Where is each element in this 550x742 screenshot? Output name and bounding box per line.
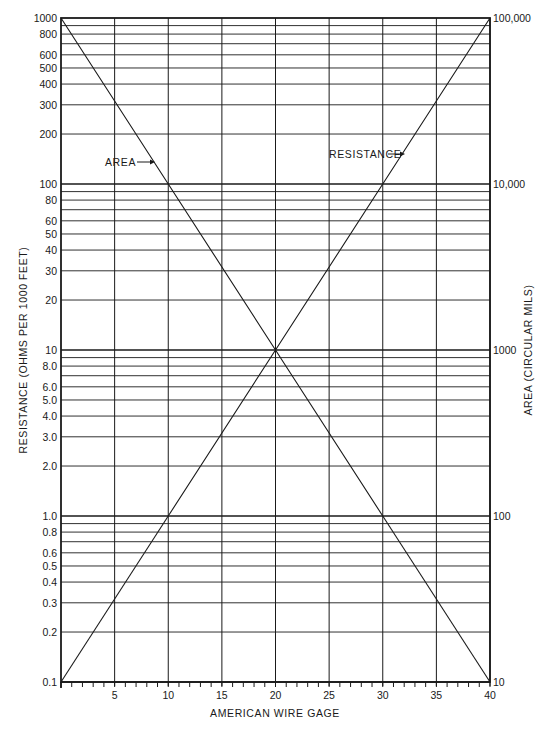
y-tick-label: 60 <box>45 215 57 227</box>
y-tick-label: 1.0 <box>42 510 57 522</box>
x-tick-label: 20 <box>270 689 282 701</box>
y-tick-label: 0.1 <box>42 676 57 688</box>
y-tick-label: 100 <box>39 178 57 190</box>
resistance-annotation: RESISTANCE <box>329 148 405 160</box>
y2-axis-title: AREA (CIRCULAR MILS) <box>522 284 534 415</box>
y-tick-label: 600 <box>39 49 57 61</box>
y-tick-label: 800 <box>39 28 57 40</box>
vertical-gridlines <box>115 18 490 686</box>
y-tick-label: 500 <box>39 62 57 74</box>
wire-gage-chart: 1000800600500400300200100806050403020108… <box>0 0 550 742</box>
x-axis-title: AMERICAN WIRE GAGE <box>210 707 340 719</box>
x-tick-label: 40 <box>484 689 496 701</box>
y-tick-label: 30 <box>45 265 57 277</box>
y-tick-label: 50 <box>45 228 57 240</box>
y-tick-label: 1000 <box>34 12 58 24</box>
y2-tick-label: 100 <box>493 510 511 522</box>
y-tick-label: 2.0 <box>42 460 57 472</box>
y-tick-label: 3.0 <box>42 431 57 443</box>
x-tick-label: 15 <box>216 689 228 701</box>
y-tick-label: 10 <box>45 344 57 356</box>
x-tick-label: 35 <box>431 689 443 701</box>
y2-tick-label: 1000 <box>493 344 517 356</box>
left-y-tick-labels: 1000800600500400300200100806050403020108… <box>34 12 58 688</box>
y-tick-label: 80 <box>45 194 57 206</box>
x-tick-label: 5 <box>112 689 118 701</box>
x-tick-label: 25 <box>323 689 335 701</box>
y-tick-label: 400 <box>39 78 57 90</box>
x-tick-labels: 510152025303540 <box>112 689 496 701</box>
y-tick-label: 0.3 <box>42 597 57 609</box>
y-tick-label: 4.0 <box>42 410 57 422</box>
y-tick-label: 0.4 <box>42 576 57 588</box>
y-axis-title: RESISTANCE (OHMS PER 1000 FEET) <box>17 247 29 454</box>
y-tick-label: 5.0 <box>42 394 57 406</box>
area-annotation-label: AREA <box>105 156 136 168</box>
y-tick-label: 300 <box>39 99 57 111</box>
y-tick-label: 0.6 <box>42 547 57 559</box>
area-annotation: AREA <box>105 156 155 168</box>
y2-tick-label: 10,000 <box>493 178 525 190</box>
y-tick-label: 200 <box>39 128 57 140</box>
y-tick-label: 20 <box>45 294 57 306</box>
y2-tick-label: 100,000 <box>493 12 531 24</box>
y-tick-label: 0.2 <box>42 626 57 638</box>
x-tick-label: 30 <box>377 689 389 701</box>
y-tick-label: 8.0 <box>42 360 57 372</box>
y-tick-label: 6.0 <box>42 381 57 393</box>
y2-tick-label: 10 <box>493 676 505 688</box>
x-tick-label: 10 <box>162 689 174 701</box>
y-tick-label: 40 <box>45 244 57 256</box>
y-tick-label: 0.5 <box>42 560 57 572</box>
y-tick-label: 0.8 <box>42 526 57 538</box>
